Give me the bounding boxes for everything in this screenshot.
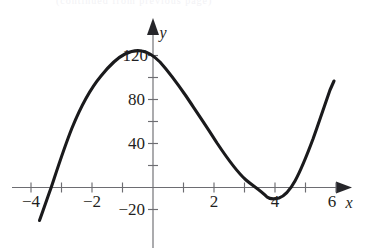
figure-container: (continued from previous page)	[0, 0, 366, 250]
x-tick-label-4: 4	[271, 192, 280, 211]
y-tick-label-40: 40	[128, 134, 145, 153]
y-tick-label-120: 120	[123, 46, 149, 65]
y-axis-arrow-icon	[147, 18, 159, 35]
x-tick-label-2: 2	[210, 192, 219, 211]
x-tick-label--4: −4	[22, 192, 41, 211]
x-axis-label: x	[344, 194, 352, 211]
x-axis-arrow-icon	[336, 182, 352, 194]
y-tick-label-80: 80	[128, 90, 145, 109]
x-tick-label-6: 6	[328, 192, 337, 211]
y-tick-label--20: −20	[118, 200, 145, 219]
cubic-function-plot: −4 −2 2 4 6 −20 40 80 120 x y	[0, 0, 366, 250]
x-tick-label--2: −2	[83, 192, 101, 211]
y-axis-label: y	[157, 24, 167, 42]
